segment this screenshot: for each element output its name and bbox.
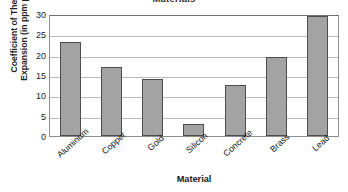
bar-slot — [91, 16, 132, 136]
y-axis-tick-label: 30 — [36, 11, 46, 20]
x-tick-slot: Copper — [90, 137, 131, 173]
bar[interactable] — [101, 67, 122, 136]
y-axis-tick-labels: 051015202530 — [28, 15, 46, 137]
y-axis-tick-label: 15 — [36, 72, 46, 81]
x-axis-tick-labels: AluminumCopperGoldSiliconConcreteBrassLe… — [49, 137, 339, 173]
x-axis-title: Material — [49, 174, 339, 184]
bar-chart-figure: Materials Coefficient of Thermal Expansi… — [0, 0, 348, 192]
bar-slot — [215, 16, 256, 136]
bar-slot — [50, 16, 91, 136]
bar[interactable] — [266, 57, 287, 136]
x-tick-slot: Aluminum — [49, 137, 90, 173]
bar[interactable] — [225, 85, 246, 136]
chart-title: Materials — [0, 0, 348, 4]
y-axis-tick-label: 5 — [41, 112, 46, 121]
bar-slot — [173, 16, 214, 136]
x-tick-slot: Concrete — [215, 137, 256, 173]
bar-slot — [256, 16, 297, 136]
bar[interactable] — [60, 42, 81, 136]
y-axis-tick-label: 0 — [41, 133, 46, 142]
x-axis-tick-label: Lead — [311, 134, 331, 154]
y-axis-tick-label: 25 — [36, 31, 46, 40]
y-axis-tick-label: 20 — [36, 51, 46, 60]
x-tick-slot: Silicon — [173, 137, 214, 173]
y-axis-tick-label: 10 — [36, 92, 46, 101]
bars-container — [50, 16, 338, 136]
x-tick-slot: Lead — [298, 137, 339, 173]
x-tick-slot: Brass — [256, 137, 297, 173]
x-tick-slot: Gold — [132, 137, 173, 173]
y-axis-title-line-1: Coefficient of Thermal — [9, 0, 19, 81]
x-axis-tick-label: Gold — [146, 134, 166, 153]
bar[interactable] — [142, 79, 163, 136]
bar-slot — [297, 16, 338, 136]
plot-area — [49, 15, 339, 137]
bar[interactable] — [307, 16, 328, 136]
bar-slot — [132, 16, 173, 136]
